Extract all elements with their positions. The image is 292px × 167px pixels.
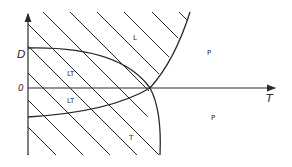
region-label-T: T: [128, 134, 134, 142]
x-axis-label: T: [266, 92, 274, 105]
region-label-P-upper: P: [207, 49, 211, 57]
region-label-P-lower: P: [211, 114, 215, 122]
phase-diagram: D 0 T L LT LT P P T: [0, 0, 292, 167]
origin-label: 0: [18, 83, 24, 93]
region-label-LT-lower: LT: [67, 97, 75, 105]
hatch-pattern: [0, 12, 292, 162]
y-axis-label: D: [17, 48, 25, 61]
region-label-L: L: [133, 34, 137, 42]
region-label-LT-upper: LT: [67, 70, 75, 78]
lower-boundary-curve: [28, 12, 190, 117]
